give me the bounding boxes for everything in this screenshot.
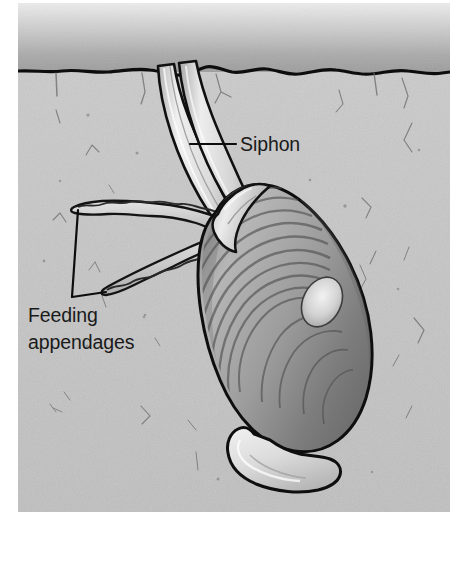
clam-sediment-illustration: Siphon Feeding appendages bbox=[0, 0, 459, 576]
feeding-appendages-label-line2: appendages bbox=[28, 331, 135, 353]
feeding-appendages-label-line1: Feeding bbox=[28, 304, 98, 326]
siphon-label: Siphon bbox=[240, 133, 300, 155]
figure-root: Siphon Feeding appendages bbox=[0, 0, 459, 576]
illustration-panel bbox=[18, 3, 450, 512]
water-column bbox=[18, 3, 450, 75]
